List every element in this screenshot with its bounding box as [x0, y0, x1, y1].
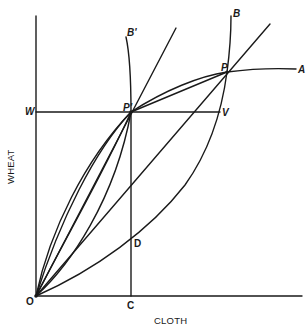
x-axis-title: CLOTH	[154, 316, 187, 326]
curve-a	[36, 69, 296, 296]
label-b: B	[233, 9, 240, 19]
label-c: C	[127, 301, 134, 311]
label-p-prime: P'	[123, 103, 132, 113]
label-a: A	[298, 65, 305, 75]
label-v: V	[222, 108, 229, 118]
label-w: W	[25, 107, 34, 117]
label-b-prime: B'	[127, 28, 137, 38]
curve-b	[36, 16, 231, 296]
label-d: D	[134, 239, 141, 249]
diagram-canvas	[0, 0, 307, 328]
label-origin: O	[26, 297, 34, 307]
origin-dot	[34, 294, 38, 298]
label-p: P	[221, 63, 228, 73]
ray-p-prime-to-p	[131, 72, 227, 112]
y-axis-title: WHEAT	[6, 149, 16, 184]
